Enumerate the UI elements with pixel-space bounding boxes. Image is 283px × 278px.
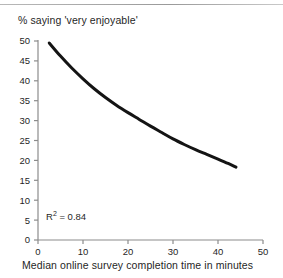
y-tick-label: 50 [19, 35, 30, 46]
x-tick-label: 20 [123, 246, 134, 257]
r-squared-annotation: R2 = 0.84 [46, 211, 86, 222]
trend-line [49, 43, 236, 167]
x-tick-label: 40 [213, 246, 224, 257]
plot-area: 0510152025303540455001020304050 [0, 0, 283, 278]
y-tick-label: 15 [19, 175, 30, 186]
x-axis-title: Median online survey completion time in … [22, 259, 253, 271]
y-tick-label: 30 [19, 115, 30, 126]
tick-labels-group: 0510152025303540455001020304050 [19, 35, 268, 257]
y-tick-label: 20 [19, 155, 30, 166]
y-tick-label: 5 [25, 215, 30, 226]
y-tick-label: 0 [25, 234, 30, 245]
r-squared-value: = 0.84 [57, 211, 86, 222]
x-tick-label: 10 [78, 246, 89, 257]
chart-figure: % saying 'very enjoyable' 05101520253035… [0, 0, 283, 278]
r-squared-symbol: R [46, 211, 53, 222]
y-tick-label: 40 [19, 75, 30, 86]
y-tick-label: 10 [19, 195, 30, 206]
y-tick-label: 35 [19, 95, 30, 106]
x-tick-label: 0 [35, 246, 40, 257]
data-series-group [49, 43, 236, 167]
y-tick-label: 25 [19, 135, 30, 146]
y-tick-label: 45 [19, 55, 30, 66]
x-tick-label: 50 [258, 246, 269, 257]
x-tick-label: 30 [168, 246, 179, 257]
